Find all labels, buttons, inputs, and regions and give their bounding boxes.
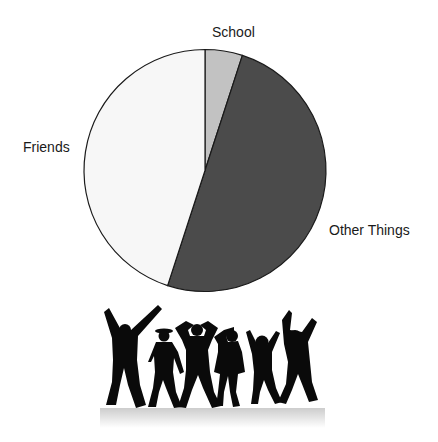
dancer-silhouette-3 bbox=[175, 321, 221, 408]
dancer-silhouette-4 bbox=[214, 327, 245, 407]
dancing-people-illustration bbox=[0, 0, 438, 442]
dancer-silhouette-5 bbox=[246, 330, 282, 404]
dancers-reflection bbox=[100, 408, 325, 428]
pie-chart-figure: School Friends Other Things bbox=[0, 0, 438, 442]
dancer-silhouette-2 bbox=[148, 329, 184, 409]
dancer-silhouette-6 bbox=[278, 310, 318, 404]
